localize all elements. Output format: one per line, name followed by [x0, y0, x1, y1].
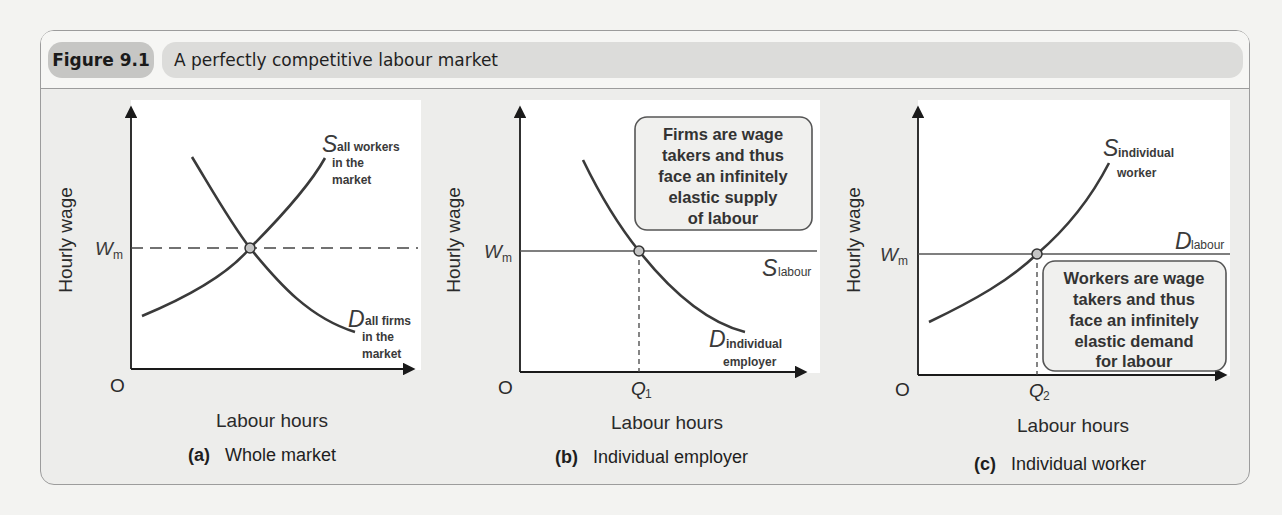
demand-label-sub: in the — [362, 330, 394, 344]
supply-label: S — [322, 131, 338, 157]
demand-label-sub: employer — [723, 355, 777, 369]
origin-label: O — [895, 379, 910, 400]
quantity-label: Q — [631, 378, 646, 399]
supply-label: S — [1103, 135, 1119, 161]
annotation-line: Firms are wage — [663, 125, 783, 143]
equilibrium-point — [634, 246, 644, 256]
supply-label-sub: in the — [332, 156, 364, 170]
annotation-line: face an infinitely — [1069, 311, 1199, 329]
demand-label-sub: individual — [726, 337, 782, 351]
supply-label-sub: worker — [1116, 166, 1157, 180]
x-axis-title: Labour hours — [611, 412, 723, 433]
chart-individual-worker: Workers are wage takers and thus face an… — [843, 100, 1230, 474]
demand-label: D — [1175, 228, 1192, 254]
annotation-line: takers and thus — [1073, 290, 1195, 308]
caption-tag: (c) — [974, 454, 996, 474]
chart-individual-employer: Firms are wage takers and thus face an i… — [443, 100, 820, 467]
demand-label-sub: all firms — [365, 314, 411, 328]
wage-label-sub: m — [113, 248, 123, 262]
x-axis-title: Labour hours — [216, 410, 328, 431]
supply-label-sub: all workers — [337, 140, 400, 154]
supply-label-sub: individual — [1118, 146, 1174, 160]
demand-label: D — [709, 326, 726, 352]
wage-label: W — [880, 244, 900, 265]
charts-canvas: W m S all workers in the market D all fi… — [0, 0, 1282, 515]
origin-label: O — [110, 375, 125, 396]
demand-label-sub: market — [362, 347, 401, 361]
quantity-label-sub: 1 — [645, 387, 652, 401]
supply-label-sub: labour — [778, 265, 811, 279]
annotation-line: for labour — [1096, 352, 1174, 370]
supply-label-sub: market — [332, 173, 371, 187]
panel-caption: Individual employer — [593, 447, 748, 467]
wage-label: W — [95, 238, 115, 259]
panel-caption: Individual worker — [1011, 454, 1146, 474]
x-axis-title: Labour hours — [1017, 415, 1129, 436]
caption-tag: (a) — [188, 445, 210, 465]
annotation-line: elastic supply — [668, 188, 778, 206]
wage-label: W — [484, 241, 504, 262]
equilibrium-point — [1032, 249, 1042, 259]
y-axis-title: Hourly wage — [443, 187, 464, 293]
annotation-line: elastic demand — [1074, 332, 1193, 350]
annotation-line: Workers are wage — [1064, 269, 1205, 287]
y-axis-title: Hourly wage — [843, 187, 864, 293]
chart-whole-market: W m S all workers in the market D all fi… — [55, 100, 421, 465]
demand-label: D — [348, 306, 365, 332]
annotation-line: of labour — [688, 209, 759, 227]
caption-tag: (b) — [555, 447, 578, 467]
y-axis-title: Hourly wage — [55, 187, 76, 293]
origin-label: O — [498, 377, 513, 398]
equilibrium-point — [245, 243, 255, 253]
annotation-line: takers and thus — [662, 146, 784, 164]
panel-caption: Whole market — [225, 445, 336, 465]
demand-label-sub: labour — [1191, 238, 1224, 252]
quantity-label-sub: 2 — [1043, 389, 1050, 403]
annotation-line: face an infinitely — [658, 167, 788, 185]
wage-label-sub: m — [502, 251, 512, 265]
supply-label: S — [762, 255, 778, 281]
quantity-label: Q — [1029, 380, 1044, 401]
wage-label-sub: m — [898, 254, 908, 268]
